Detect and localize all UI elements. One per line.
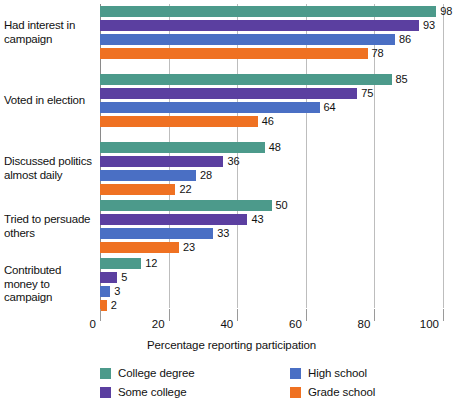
category-label-line: others bbox=[4, 227, 96, 241]
bar-value-label: 3 bbox=[114, 284, 120, 298]
bar-row: 22 bbox=[100, 184, 443, 195]
bar-row: 85 bbox=[100, 74, 443, 85]
bar-value-label: 48 bbox=[269, 140, 281, 154]
bar bbox=[100, 214, 247, 225]
x-tick-20 bbox=[169, 309, 170, 321]
bar bbox=[100, 142, 265, 153]
bar-row: 5 bbox=[100, 272, 443, 283]
bar bbox=[100, 156, 223, 167]
bar-chart: 9893867885756446483628225043332312532 Ha… bbox=[0, 0, 463, 411]
bar-value-label: 22 bbox=[179, 182, 191, 196]
chart-legend: College degreeSome collegeHigh schoolGra… bbox=[100, 366, 430, 406]
bar bbox=[100, 48, 368, 59]
x-tick-0 bbox=[100, 309, 101, 321]
bar-value-label: 75 bbox=[361, 86, 373, 100]
x-tick-label: 0 bbox=[90, 317, 100, 331]
category-label-line: money to bbox=[4, 278, 96, 292]
bar-value-label: 85 bbox=[396, 72, 408, 86]
category-label: Had interest incampaign bbox=[4, 19, 96, 46]
bar-value-label: 5 bbox=[121, 270, 127, 284]
bar-row: 86 bbox=[100, 34, 443, 45]
category-label-line: campaign bbox=[4, 291, 96, 305]
bar bbox=[100, 228, 213, 239]
category-label-line: Voted in election bbox=[4, 94, 96, 108]
x-tick-80 bbox=[374, 309, 375, 321]
bar bbox=[100, 102, 320, 113]
bar-value-label: 64 bbox=[324, 100, 336, 114]
legend-label: High school bbox=[308, 367, 367, 380]
bar-row: 28 bbox=[100, 170, 443, 181]
legend-label: Some college bbox=[118, 386, 186, 399]
legend-label: Grade school bbox=[308, 386, 375, 399]
x-tick-100 bbox=[443, 309, 444, 321]
bar bbox=[100, 116, 258, 127]
x-tick-60 bbox=[306, 309, 307, 321]
bar-row: 2 bbox=[100, 300, 443, 311]
bar-row: 50 bbox=[100, 200, 443, 211]
legend-item-grade-school[interactable]: Grade school bbox=[290, 385, 375, 399]
bar-value-label: 28 bbox=[200, 168, 212, 182]
bar bbox=[100, 170, 196, 181]
bar-row: 46 bbox=[100, 116, 443, 127]
bar bbox=[100, 88, 357, 99]
bar-row: 78 bbox=[100, 48, 443, 59]
legend-item-college-degree[interactable]: College degree bbox=[100, 366, 195, 380]
bar bbox=[100, 200, 272, 211]
x-tick-40 bbox=[237, 309, 238, 321]
category-label-line: almost daily bbox=[4, 169, 96, 183]
bar bbox=[100, 74, 392, 85]
bar bbox=[100, 20, 419, 31]
bar bbox=[100, 34, 395, 45]
bar-value-label: 78 bbox=[372, 46, 384, 60]
category-label: Contributedmoney tocampaign bbox=[4, 264, 96, 305]
bar-value-label: 43 bbox=[251, 212, 263, 226]
category-label: Tried to persuadeothers bbox=[4, 213, 96, 240]
bar bbox=[100, 258, 141, 269]
bar-value-label: 86 bbox=[399, 32, 411, 46]
category-label: Discussed politicsalmost daily bbox=[4, 155, 96, 182]
bar bbox=[100, 184, 175, 195]
category-label: Voted in election bbox=[4, 94, 96, 108]
bar bbox=[100, 300, 107, 311]
x-tick-label: 40 bbox=[220, 317, 237, 331]
bar-row: 36 bbox=[100, 156, 443, 167]
bar-value-label: 93 bbox=[423, 18, 435, 32]
bar bbox=[100, 242, 179, 253]
x-tick-label: 60 bbox=[289, 317, 306, 331]
bar-value-label: 36 bbox=[227, 154, 239, 168]
bar-value-label: 46 bbox=[262, 114, 274, 128]
plot-area: 9893867885756446483628225043332312532 bbox=[100, 4, 443, 308]
category-label-line: Discussed politics bbox=[4, 155, 96, 169]
legend-swatch-icon bbox=[290, 368, 301, 379]
bar-value-label: 12 bbox=[145, 256, 157, 270]
legend-swatch-icon bbox=[290, 387, 301, 398]
bar-row: 3 bbox=[100, 286, 443, 297]
bar-row: 64 bbox=[100, 102, 443, 113]
bar-row: 98 bbox=[100, 6, 443, 17]
category-label-line: Had interest in bbox=[4, 19, 96, 33]
x-tick-label: 80 bbox=[358, 317, 375, 331]
bar-row: 43 bbox=[100, 214, 443, 225]
legend-swatch-icon bbox=[100, 368, 111, 379]
bar-row: 48 bbox=[100, 142, 443, 153]
bar bbox=[100, 6, 436, 17]
x-axis-title: Percentage reporting participation bbox=[0, 339, 463, 351]
x-tick-label: 20 bbox=[152, 317, 169, 331]
gridline-100 bbox=[443, 4, 444, 308]
bar-row: 33 bbox=[100, 228, 443, 239]
legend-item-some-college[interactable]: Some college bbox=[100, 385, 186, 399]
bar-row: 12 bbox=[100, 258, 443, 269]
bar-value-label: 50 bbox=[276, 198, 288, 212]
bar-row: 23 bbox=[100, 242, 443, 253]
bar bbox=[100, 286, 110, 297]
legend-item-high-school[interactable]: High school bbox=[290, 366, 367, 380]
category-label-line: Contributed bbox=[4, 264, 96, 278]
bar-value-label: 98 bbox=[440, 4, 452, 18]
legend-label: College degree bbox=[118, 367, 195, 380]
bar-value-label: 33 bbox=[217, 226, 229, 240]
category-label-line: Tried to persuade bbox=[4, 213, 96, 227]
legend-swatch-icon bbox=[100, 387, 111, 398]
bar-value-label: 2 bbox=[111, 298, 117, 312]
bar-row: 75 bbox=[100, 88, 443, 99]
bar bbox=[100, 272, 117, 283]
